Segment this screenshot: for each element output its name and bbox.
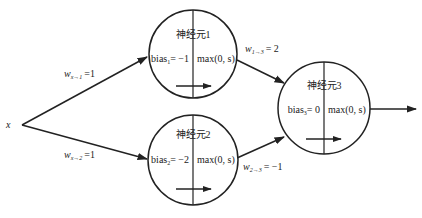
- neuron-1: 神经元1 bias1= −1 max(0, s): [149, 10, 237, 98]
- edge-neuron1-to-neuron3: [237, 60, 284, 83]
- weight-label-2-3: w2→3= −1: [243, 161, 282, 173]
- neuron-1-bias: bias1= −1: [151, 53, 189, 65]
- neuron-2: 神经元2 bias2= −2 max(0, s): [148, 115, 238, 205]
- input-label: x: [5, 119, 11, 130]
- neural-network-diagram: x wx→1=1 wx→2=1 w1→3= 2 w2→3= −1 神经元1 bi…: [0, 0, 422, 218]
- neuron-3-title: 神经元3: [307, 79, 342, 91]
- weight-label-x-2: wx→2=1: [64, 149, 95, 161]
- neuron-2-bias: bias2= −2: [151, 154, 189, 166]
- neuron-2-activation: max(0, s): [197, 154, 235, 166]
- neuron-3-activation: max(0, s): [328, 104, 366, 116]
- neuron-2-title: 神经元2: [176, 128, 211, 140]
- weight-label-1-3: w1→3= 2: [245, 43, 279, 55]
- weight-label-x-1: wx→1=1: [64, 68, 95, 80]
- neuron-1-activation: max(0, s): [197, 53, 235, 65]
- neuron-1-title: 神经元1: [176, 28, 211, 40]
- edge-neuron2-to-neuron3: [237, 137, 284, 158]
- neuron-3: 神经元3 bias3= 0 max(0, s): [278, 62, 370, 154]
